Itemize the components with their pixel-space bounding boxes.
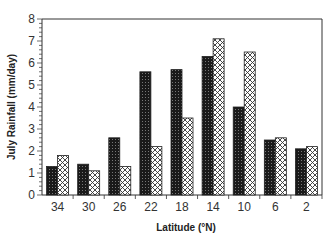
y-tick-label: 8 xyxy=(28,12,35,26)
x-tick-label: 18 xyxy=(175,200,189,214)
bar-dark-stippled xyxy=(233,107,244,195)
bar-light-crosshatched xyxy=(213,39,224,195)
bar-light-crosshatched xyxy=(244,52,255,195)
x-tick-label: 34 xyxy=(51,200,65,214)
bar-light-crosshatched xyxy=(275,138,286,195)
bar-dark-stippled xyxy=(295,149,306,195)
bar-light-crosshatched xyxy=(151,147,162,195)
y-tick-label: 2 xyxy=(28,144,35,158)
y-tick-label: 0 xyxy=(28,188,35,202)
plot-area: 0123456783430262218141062 xyxy=(28,12,322,214)
bar-light-crosshatched xyxy=(306,147,317,195)
x-axis-title: Latitude (°N) xyxy=(156,222,216,233)
y-tick-label: 1 xyxy=(28,166,35,180)
x-tick-label: 2 xyxy=(303,200,310,214)
x-tick-label: 10 xyxy=(238,200,252,214)
y-tick-label: 3 xyxy=(28,122,35,136)
bar-dark-stippled xyxy=(264,140,275,195)
y-tick-label: 4 xyxy=(28,100,35,114)
bar-chart: 0123456783430262218141062 July Rainfall … xyxy=(0,0,332,234)
y-tick-label: 7 xyxy=(28,34,35,48)
bar-dark-stippled xyxy=(202,56,213,195)
x-tick-label: 30 xyxy=(82,200,96,214)
bar-light-crosshatched xyxy=(89,171,100,195)
bar-dark-stippled xyxy=(140,72,151,195)
x-tick-label: 26 xyxy=(113,200,127,214)
y-tick-label: 6 xyxy=(28,56,35,70)
bar-dark-stippled xyxy=(78,164,89,195)
bar-light-crosshatched xyxy=(182,118,193,195)
x-tick-label: 22 xyxy=(144,200,158,214)
x-tick-label: 6 xyxy=(272,200,279,214)
bar-light-crosshatched xyxy=(58,155,69,195)
x-tick-label: 14 xyxy=(206,200,220,214)
bar-dark-stippled xyxy=(171,70,182,195)
y-axis-title: July Rainfall (mm/day) xyxy=(6,54,17,160)
bar-dark-stippled xyxy=(47,166,58,195)
bar-light-crosshatched xyxy=(120,166,131,195)
y-tick-label: 5 xyxy=(28,78,35,92)
bar-dark-stippled xyxy=(109,138,120,195)
